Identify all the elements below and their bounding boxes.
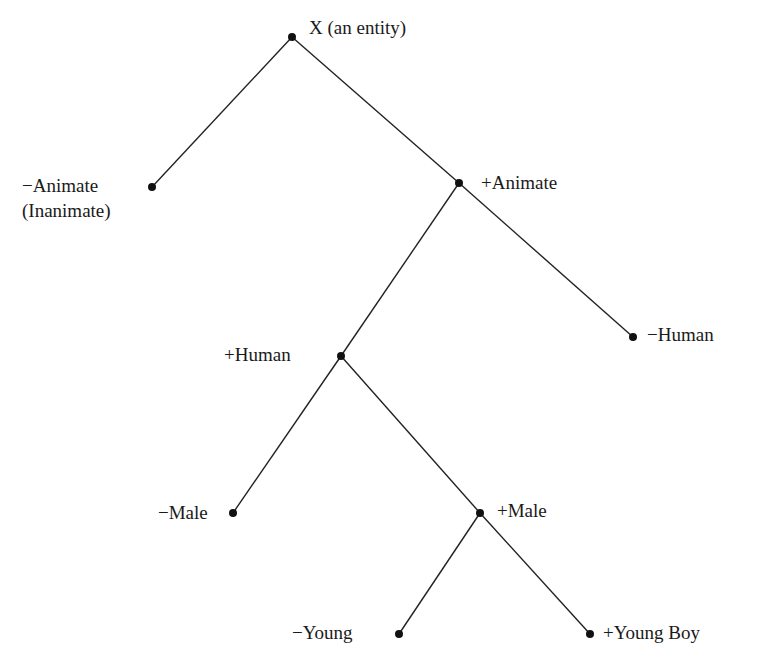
node-dot-pos-male xyxy=(476,509,484,517)
edge-root-pos-animate xyxy=(292,37,459,183)
node-label-neg-young: −Young xyxy=(292,622,353,644)
node-dot-neg-human xyxy=(629,333,637,341)
node-dot-pos-human xyxy=(337,352,345,360)
node-label-pos-animate: +Animate xyxy=(481,172,557,194)
node-dot-neg-male xyxy=(229,509,237,517)
node-label-pos-human: +Human xyxy=(224,344,291,366)
edge-human-neg-male xyxy=(233,356,341,513)
node-label-neg-human: −Human xyxy=(647,324,714,346)
node-label-pos-young-boy: +Young Boy xyxy=(603,622,700,644)
edge-animate-pos-human xyxy=(341,183,459,356)
node-dot-root xyxy=(288,33,296,41)
edge-human-pos-male xyxy=(341,356,480,513)
edge-animate-neg-human xyxy=(459,183,633,337)
node-label-neg-male: −Male xyxy=(158,502,208,524)
edge-male-neg-young xyxy=(399,513,480,634)
node-label-root: X (an entity) xyxy=(309,17,406,39)
node-dot-neg-young xyxy=(395,630,403,638)
node-dot-pos-young-boy xyxy=(586,630,594,638)
node-label-pos-male: +Male xyxy=(497,500,547,522)
node-label-neg-animate: −Animate xyxy=(22,175,98,197)
node-sublabel-inanimate: (Inanimate) xyxy=(22,200,111,222)
edge-root-neg-animate xyxy=(152,37,292,187)
edge-male-pos-young-boy xyxy=(480,513,590,634)
node-dot-pos-animate xyxy=(455,179,463,187)
node-dot-neg-animate xyxy=(148,183,156,191)
